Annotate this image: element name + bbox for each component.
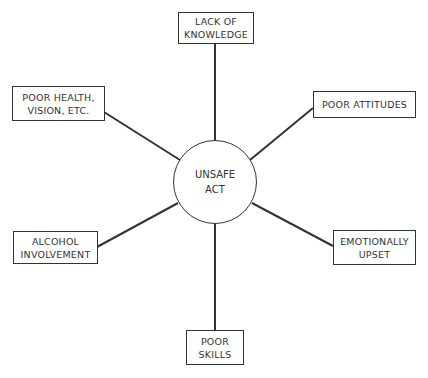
factor-label: POOR SKILLS bbox=[199, 335, 232, 361]
factor-label: POOR ATTITUDES bbox=[322, 98, 407, 111]
factor-poor-skills: POOR SKILLS bbox=[186, 330, 244, 365]
factor-alcohol-involvement: ALCOHOL INVOLVEMENT bbox=[13, 231, 98, 264]
unsafe-act-label: UNSAFE ACT bbox=[195, 167, 235, 197]
connector-emotionally-upset bbox=[252, 203, 333, 246]
factor-label: ALCOHOL INVOLVEMENT bbox=[21, 235, 91, 261]
factor-emotionally-upset: EMOTIONALLY UPSET bbox=[333, 230, 416, 265]
connector-alcohol-involvement bbox=[97, 203, 178, 247]
factor-poor-health: POOR HEALTH, VISION, ETC. bbox=[12, 86, 105, 121]
factor-label: LACK OF KNOWLEDGE bbox=[184, 15, 248, 41]
unsafe-act-node: UNSAFE ACT bbox=[173, 140, 257, 224]
factor-lack-of-knowledge: LACK OF KNOWLEDGE bbox=[178, 12, 254, 44]
factor-poor-attitudes: POOR ATTITUDES bbox=[313, 91, 416, 118]
connector-poor-attitudes bbox=[250, 108, 313, 160]
factor-label: POOR HEALTH, VISION, ETC. bbox=[22, 91, 94, 117]
connector-poor-health bbox=[104, 112, 180, 160]
factor-label: EMOTIONALLY UPSET bbox=[340, 235, 409, 261]
